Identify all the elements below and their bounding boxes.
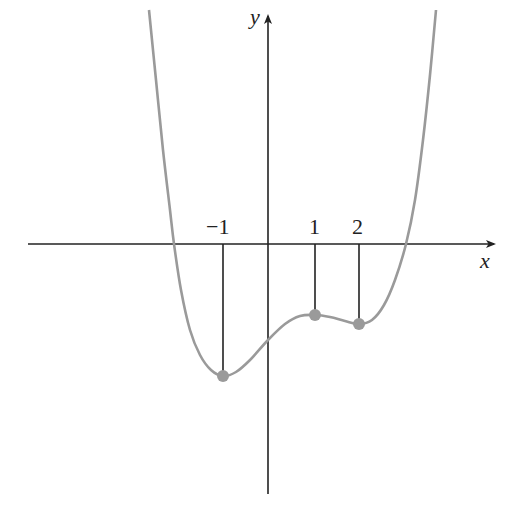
tick-label-1: 1 [309,216,320,238]
y-axis-label: y [250,6,260,28]
function-curve [149,10,436,376]
critical-point-neg1 [217,370,229,382]
tick-label-neg1: −1 [206,216,229,238]
chart-plot [0,0,508,514]
tick-label-2: 2 [352,216,363,238]
critical-point-2 [353,318,365,330]
critical-point-1 [309,309,321,321]
x-axis-label: x [480,250,490,272]
